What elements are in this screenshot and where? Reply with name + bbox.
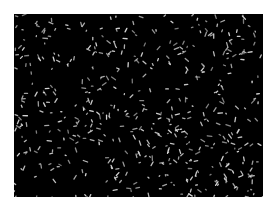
particle-field	[14, 14, 263, 197]
micrograph-image	[14, 14, 263, 197]
